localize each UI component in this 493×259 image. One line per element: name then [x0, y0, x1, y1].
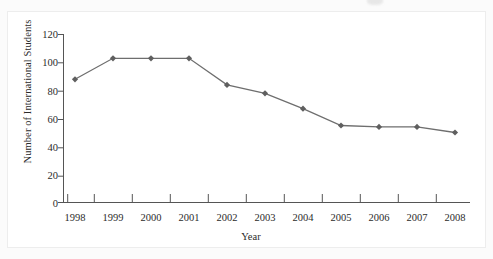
- x-tick-label-2006: 2006: [359, 212, 399, 223]
- data-point-2007: [414, 124, 420, 130]
- x-tick-label-2008: 2008: [435, 212, 475, 223]
- data-point-2003: [262, 90, 268, 96]
- y-tick-label-100: 100: [28, 57, 58, 68]
- x-tick-label-2002: 2002: [207, 212, 247, 223]
- y-tick-label-120: 120: [28, 29, 58, 40]
- x-tick-label-2007: 2007: [397, 212, 437, 223]
- data-markers: [72, 55, 458, 135]
- x-tick-label-1999: 1999: [93, 212, 133, 223]
- x-tick-marks: [68, 194, 437, 203]
- data-point-2008: [452, 129, 458, 135]
- data-point-2000: [148, 55, 154, 61]
- y-tick-marks: [58, 35, 64, 203]
- data-point-2006: [376, 124, 382, 130]
- data-point-2004: [300, 106, 306, 112]
- x-tick-label-2004: 2004: [283, 212, 323, 223]
- x-tick-label-1998: 1998: [55, 212, 95, 223]
- y-tick-label-0: 0: [28, 198, 58, 209]
- y-tick-label-80: 80: [28, 86, 58, 97]
- x-tick-label-2005: 2005: [321, 212, 361, 223]
- data-point-2005: [338, 122, 344, 128]
- y-tick-label-40: 40: [28, 142, 58, 153]
- y-tick-label-20: 20: [28, 170, 58, 181]
- x-tick-label-2003: 2003: [245, 212, 285, 223]
- y-tick-label-60: 60: [28, 114, 58, 125]
- x-axis-title: Year: [63, 231, 439, 242]
- x-tick-label-2001: 2001: [169, 212, 209, 223]
- data-point-1999: [110, 55, 116, 61]
- data-point-1998: [72, 76, 78, 82]
- line-chart: Number of International Students Year 12…: [0, 0, 493, 259]
- figure-page: Number of International Students Year 12…: [0, 0, 493, 259]
- x-tick-label-2000: 2000: [131, 212, 171, 223]
